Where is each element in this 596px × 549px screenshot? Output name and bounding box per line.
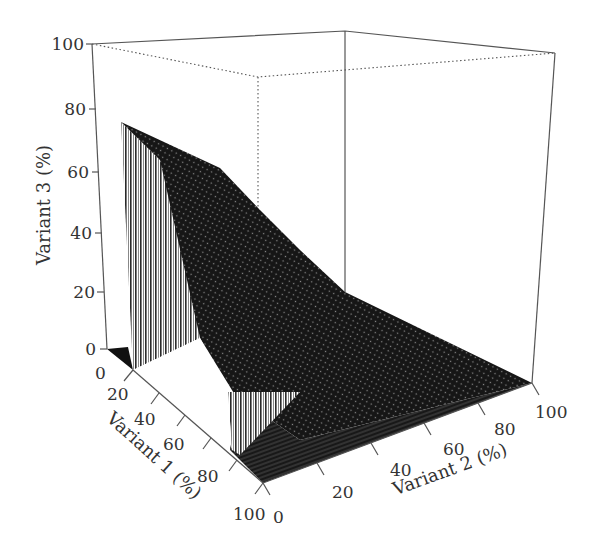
z-tick-label: 60 <box>67 162 89 182</box>
surface-mesh <box>107 122 532 483</box>
z-tick-label: 0 <box>85 339 96 359</box>
x-tick-label: 0 <box>95 363 106 383</box>
z-tick-label: 40 <box>70 223 92 243</box>
z-axis: 100 80 60 40 20 0 Variant 3 (%) <box>33 34 107 359</box>
x-tick-label: 20 <box>107 384 129 404</box>
y-tick-label: 80 <box>494 419 516 439</box>
x-tick-label: 100 <box>233 504 265 524</box>
z-tick-label: 100 <box>52 34 84 54</box>
z-tick-label: 80 <box>64 99 86 119</box>
y-tick-label: 20 <box>332 482 354 502</box>
z-axis-label: Variant 3 (%) <box>33 145 54 266</box>
surface-chart: 100 80 60 40 20 0 Variant 3 (%) 0 20 40 … <box>0 0 596 549</box>
y-tick-label: 0 <box>273 507 284 527</box>
y-tick-label: 100 <box>535 402 567 422</box>
z-tick-label: 20 <box>73 282 95 302</box>
